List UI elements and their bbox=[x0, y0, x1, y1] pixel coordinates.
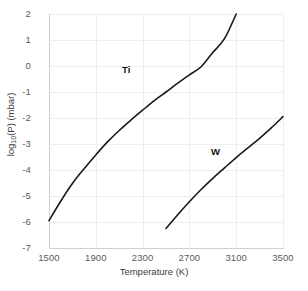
curve-ti bbox=[49, 14, 236, 221]
curve-w bbox=[166, 117, 283, 229]
series-curves bbox=[0, 0, 308, 291]
vapor-pressure-chart: 2 1 0 -1 -2 -3 -4 -5 -6 -7 1500 1900 230… bbox=[0, 0, 308, 291]
series-label-ti: Ti bbox=[122, 64, 130, 75]
series-label-w: W bbox=[211, 146, 220, 157]
